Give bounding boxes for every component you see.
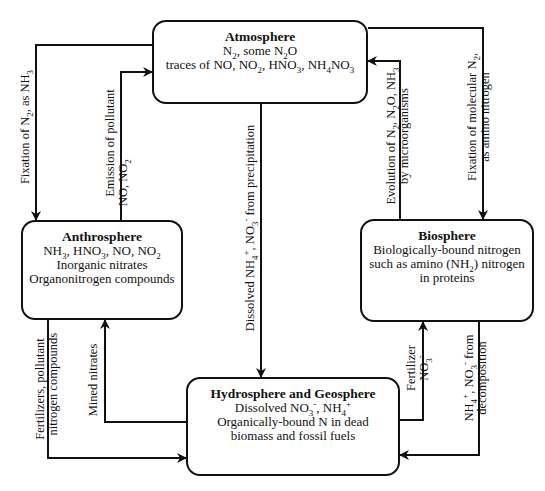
label-decomposition: NH4+, NO3- from decomposition xyxy=(463,328,489,428)
hydrosphere-line3: biomass and fossil fuels xyxy=(188,429,398,443)
hydrosphere-line1: Dissolved NO3-, NH4+ xyxy=(188,401,398,415)
arrow-fertilizers-pollutant xyxy=(48,320,186,458)
anthrosphere-box: Anthrosphere NH3, HNO3, NO, NO2 Inorgani… xyxy=(21,220,183,320)
hydrosphere-line2: Organically-bound N in dead xyxy=(188,415,398,429)
atmosphere-box: Atmosphere N2, some N2O traces of NO, NO… xyxy=(152,20,368,104)
label-evolution: Evolution of N2, N2O, NH3 by microorgani… xyxy=(385,56,411,216)
biosphere-line3: in proteins xyxy=(362,271,532,285)
label-fixation-molecular: Fixation of molecular N2, as amino nitro… xyxy=(466,52,492,182)
anthrosphere-line3: Organonitrogen compounds xyxy=(23,272,181,286)
label-fixation-nh3: Fixation of N2, as NH3 xyxy=(19,52,32,202)
biosphere-line1: Biologically-bound nitrogen xyxy=(362,243,532,257)
atmosphere-line1: N2, some N2O xyxy=(154,44,366,58)
label-emission-pollutant: Emission of pollutant NO, NO2 xyxy=(104,78,130,208)
biosphere-title: Biosphere xyxy=(362,229,532,243)
label-mined-nitrates: Mined nitrates xyxy=(87,340,100,420)
biosphere-line2: such as amino (NH2) nitrogen xyxy=(362,257,532,271)
anthrosphere-line1: NH3, HNO3, NO, NO2 xyxy=(23,244,181,258)
biosphere-box: Biosphere Biologically-bound nitrogen su… xyxy=(360,219,534,322)
anthrosphere-title: Anthrosphere xyxy=(23,230,181,244)
atmosphere-title: Atmosphere xyxy=(154,30,366,44)
hydrosphere-geosphere-box: Hydrosphere and Geosphere Dissolved NO3-… xyxy=(186,377,400,476)
label-fertilizer-no3: Fertilizer NO3- xyxy=(405,333,431,403)
arrow-mined-nitrates xyxy=(105,320,186,422)
hydrosphere-title: Hydrosphere and Geosphere xyxy=(188,387,398,401)
atmosphere-line2: traces of NO, NO2, HNO3, NH4NO3 xyxy=(154,58,366,72)
label-precipitation: Dissolved NH4+, NO3- from precipitation xyxy=(244,123,257,333)
label-fertilizers-pollutant: Fertilizers, pollutant nitrogen compound… xyxy=(34,333,60,445)
